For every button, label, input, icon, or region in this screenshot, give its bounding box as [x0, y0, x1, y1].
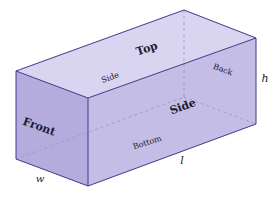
label-width: w: [36, 173, 45, 184]
label-height: h: [261, 72, 268, 85]
label-length: l: [180, 154, 184, 167]
box-diagram: Top Side Back Front Side Bottom h l w: [0, 0, 279, 197]
